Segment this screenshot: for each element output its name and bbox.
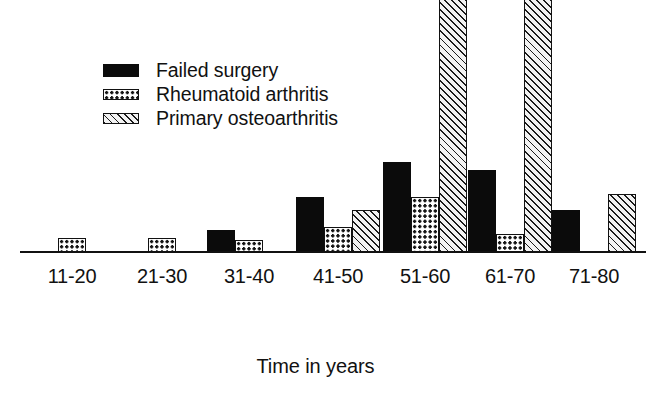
bar-group-bars	[120, 238, 204, 252]
bar-group-bars	[468, 0, 552, 252]
bar-31-40-failed-surgery	[207, 230, 235, 252]
x-tick-label-31-40: 31-40	[207, 265, 291, 288]
bar-61-70-failed-surgery	[468, 170, 496, 252]
bar-11-20-rheumatoid-arthritis	[58, 238, 86, 252]
x-tick-label-51-60: 51-60	[383, 265, 467, 288]
bar-51-60-rheumatoid-arthritis	[411, 197, 439, 252]
bar-group-bars	[30, 238, 114, 252]
group-baseline	[542, 251, 646, 253]
bar-51-60-primary-osteoarthritis	[439, 0, 467, 252]
bar-group-bars	[207, 230, 291, 252]
x-tick-label-41-50: 41-50	[296, 265, 380, 288]
x-tick-label-61-70: 61-70	[468, 265, 552, 288]
x-tick-label-11-20: 11-20	[30, 265, 114, 288]
bar-51-60-failed-surgery	[383, 162, 411, 252]
x-axis-title: Time in years	[0, 355, 631, 378]
bar-71-80-failed-surgery	[552, 210, 580, 252]
x-tick-label-71-80: 71-80	[552, 265, 636, 288]
bar-group-bars	[383, 0, 467, 252]
group-baseline	[20, 251, 124, 253]
bar-61-70-primary-osteoarthritis	[524, 0, 552, 252]
bar-41-50-rheumatoid-arthritis	[324, 227, 352, 252]
bar-61-70-rheumatoid-arthritis	[496, 234, 524, 252]
bar-21-30-rheumatoid-arthritis	[148, 238, 176, 252]
bar-group-bars	[552, 194, 636, 252]
plot-area: 11-2021-3031-4041-5051-6061-7071-80	[0, 0, 631, 330]
bar-71-80-primary-osteoarthritis	[608, 194, 636, 252]
bar-group-bars	[296, 197, 380, 252]
bar-41-50-primary-osteoarthritis	[352, 210, 380, 252]
x-tick-label-21-30: 21-30	[120, 265, 204, 288]
bar-41-50-failed-surgery	[296, 197, 324, 252]
